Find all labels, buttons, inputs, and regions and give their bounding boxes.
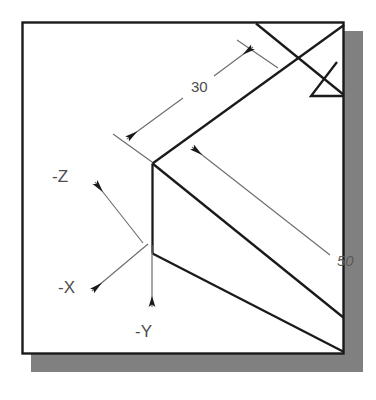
axis-neg-y-label: -Y [135,322,152,341]
technical-drawing-figure: 30 50 -Z -X -Y [0,0,376,400]
dim-30-label: 30 [191,78,208,95]
dim-50-label: 50 [337,252,354,269]
isometric-drawing-canvas: 30 50 -Z -X -Y [0,0,376,400]
axis-neg-x-label: -X [58,278,75,297]
axis-neg-z-label: -Z [52,167,68,186]
